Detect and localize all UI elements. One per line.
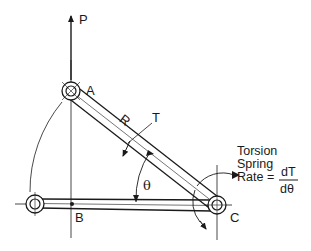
- link-bc: [40, 199, 212, 211]
- spring-arc-bottom: [193, 190, 200, 222]
- label-b: B: [75, 210, 84, 225]
- label-r: R: [117, 111, 134, 129]
- spring-arrow-bottom: [200, 221, 206, 229]
- torque-leader: [128, 123, 152, 143]
- annotation-line3: Rate =: [237, 170, 274, 184]
- label-theta: θ: [143, 178, 151, 193]
- label-a: A: [86, 83, 95, 98]
- label-c: C: [230, 210, 239, 225]
- pin-left: [26, 192, 44, 216]
- swing-arc: [30, 102, 62, 192]
- fraction-denominator: dθ: [280, 182, 294, 196]
- pin-c: [208, 196, 226, 214]
- diagram-canvas: P A B C R T θ Torsion Spring Rate = dT d…: [0, 0, 311, 251]
- angle-arrowhead-bottom: [133, 195, 139, 202]
- label-t: T: [152, 110, 160, 125]
- pin-a: [62, 82, 80, 100]
- label-p: P: [79, 12, 88, 27]
- mechanism-diagram: P A B C R T θ Torsion Spring Rate = dT d…: [0, 0, 311, 251]
- fraction-numerator: dT: [281, 165, 296, 179]
- point-b-dot: [70, 202, 74, 206]
- annotation-line1: Torsion: [237, 144, 277, 158]
- annotation-line2: Spring: [237, 157, 273, 171]
